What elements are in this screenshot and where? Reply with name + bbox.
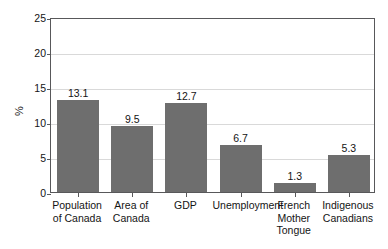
y-tick-mark [47, 194, 51, 195]
bar-value-label: 5.3 [319, 143, 379, 154]
bars: 13.19.512.76.71.35.3 [51, 19, 374, 192]
x-tick-mark [349, 192, 350, 197]
bar[interactable] [111, 126, 153, 193]
y-tick-label: 10 [24, 118, 46, 129]
x-category-label: Populationof Canada [50, 199, 104, 224]
x-category-label-line: French [267, 199, 321, 212]
x-tick-mark [78, 192, 79, 197]
x-category-label: FrenchMotherTongue [267, 199, 321, 237]
x-category-label-line: Canada [104, 212, 158, 225]
x-category-label-line: Area of [104, 199, 158, 212]
x-category-label-line: Canadians [321, 212, 375, 225]
x-category-label-line: Tongue [267, 224, 321, 237]
bar[interactable] [165, 103, 207, 192]
x-category-label: Area ofCanada [104, 199, 158, 224]
y-tick-label: 25 [24, 13, 46, 24]
x-tick-mark [241, 192, 242, 197]
x-category-label-line: GDP [158, 199, 212, 212]
x-category-label-line: Population [50, 199, 104, 212]
x-category-label: IndigenousCanadians [321, 199, 375, 224]
x-axis-category-labels: Populationof CanadaArea ofCanadaGDPUnemp… [50, 199, 375, 249]
x-category-label: Unemployment [213, 199, 267, 212]
y-tick-label: 20 [24, 48, 46, 59]
y-tick-label: 0 [24, 188, 46, 199]
x-category-label-line: Unemployment [213, 199, 267, 212]
bar-value-label: 13.1 [48, 88, 108, 99]
bar-value-label: 1.3 [265, 171, 325, 182]
bar[interactable] [57, 100, 99, 192]
x-category-label-line: Mother [267, 212, 321, 225]
bar[interactable] [328, 155, 370, 192]
x-category-label-line: of Canada [50, 212, 104, 225]
bar-chart: % 0510152025 13.19.512.76.71.35.3 Popula… [0, 0, 388, 249]
x-tick-mark [186, 192, 187, 197]
y-axis-tick-labels: 0510152025 [24, 0, 46, 249]
bar[interactable] [274, 183, 316, 192]
x-tick-mark [132, 192, 133, 197]
y-tick-label: 5 [24, 153, 46, 164]
y-tick-label: 15 [24, 83, 46, 94]
bar[interactable] [220, 145, 262, 192]
x-category-label: GDP [158, 199, 212, 212]
x-category-label-line: Indigenous [321, 199, 375, 212]
bar-value-label: 9.5 [102, 114, 162, 125]
bar-value-label: 12.7 [156, 91, 216, 102]
bar-value-label: 6.7 [211, 133, 271, 144]
plot-area: 13.19.512.76.71.35.3 [50, 18, 375, 193]
x-tick-mark [295, 192, 296, 197]
